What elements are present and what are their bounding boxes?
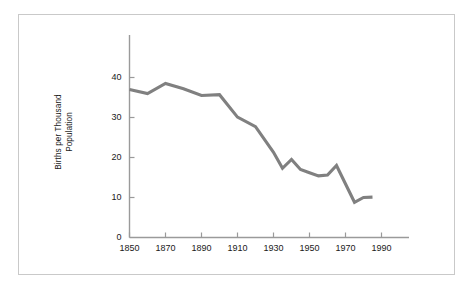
y-tick-label: 40 <box>100 72 122 82</box>
x-ticks-group <box>130 233 382 238</box>
x-tick-label: 1930 <box>258 243 290 253</box>
y-tick-label: 10 <box>100 192 122 202</box>
x-tick-label: 1970 <box>330 243 362 253</box>
y-tick-label: 20 <box>100 152 122 162</box>
axes-group <box>130 35 410 238</box>
x-tick-label: 1890 <box>186 243 218 253</box>
x-tick-label: 1870 <box>150 243 182 253</box>
data-series-line <box>130 84 373 203</box>
x-tick-label: 1850 <box>114 243 146 253</box>
figure-root: Births per Thousand Population 010203040… <box>0 0 473 288</box>
x-tick-label: 1910 <box>222 243 254 253</box>
x-tick-label: 1990 <box>366 243 398 253</box>
y-tick-label: 0 <box>100 232 122 242</box>
x-tick-label: 1950 <box>294 243 326 253</box>
data-series-group <box>130 84 373 203</box>
y-tick-label: 30 <box>100 112 122 122</box>
y-ticks-group <box>130 78 135 198</box>
